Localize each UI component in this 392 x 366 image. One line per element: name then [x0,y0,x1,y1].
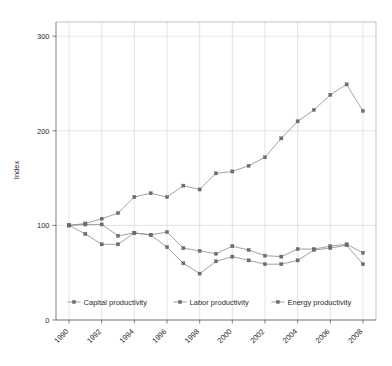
data-point-1998 [198,249,201,252]
data-point-1997 [182,247,185,250]
data-point-2008 [361,251,364,254]
y-tick-label-100: 100 [37,221,50,230]
y-tick-label-0: 0 [45,316,49,325]
data-point-2001 [247,259,250,262]
data-point-2007 [345,244,348,247]
data-point-1999 [214,252,217,255]
data-point-2004 [296,120,299,123]
data-point-1998 [198,272,201,275]
data-point-2003 [280,137,283,140]
data-point-2007 [345,83,348,86]
data-point-1996 [165,246,168,249]
data-point-2006 [329,247,332,250]
data-point-1991 [84,222,87,225]
data-point-2008 [361,263,364,266]
data-point-1994 [133,231,136,234]
data-point-1993 [116,212,119,215]
data-point-1992 [100,243,103,246]
legend-label: Capital productivity [84,298,148,307]
data-point-2001 [247,248,250,251]
data-point-2004 [296,247,299,250]
data-point-2008 [361,109,364,112]
data-point-1996 [165,195,168,198]
data-point-2000 [231,170,234,173]
data-point-1996 [165,230,168,233]
data-point-2000 [231,245,234,248]
y-axis-title: Index [12,161,21,180]
legend-marker-swatch [178,300,181,303]
data-point-1997 [182,184,185,187]
data-point-1990 [67,224,70,227]
chart-background [0,0,392,366]
data-point-2006 [329,93,332,96]
data-point-1994 [133,195,136,198]
y-tick-label-200: 200 [37,127,50,136]
data-point-1999 [214,260,217,263]
productivity-index-line-chart: 0100200300 19901992199419961998200020022… [0,0,392,366]
data-point-2000 [231,255,234,258]
chart-legend: Capital productivityLabor productivityEn… [68,298,352,307]
data-point-1995 [149,192,152,195]
data-point-2005 [312,248,315,251]
data-point-2003 [280,255,283,258]
data-point-1992 [100,217,103,220]
data-point-2004 [296,259,299,262]
chart-container: 0100200300 19901992199419961998200020022… [0,0,392,366]
data-point-2003 [280,263,283,266]
data-point-2002 [263,156,266,159]
data-point-1992 [100,223,103,226]
data-point-1999 [214,172,217,175]
legend-label: Energy productivity [287,298,351,307]
data-point-2001 [247,164,250,167]
data-point-1997 [182,262,185,265]
y-tick-label-300: 300 [37,32,50,41]
data-point-1995 [149,233,152,236]
data-point-1993 [116,234,119,237]
legend-marker-swatch [72,300,75,303]
data-point-1998 [198,188,201,191]
legend-marker-swatch [276,300,279,303]
data-point-2002 [263,263,266,266]
legend-label: Labor productivity [190,298,249,307]
data-point-1993 [116,243,119,246]
data-point-1991 [84,232,87,235]
data-point-2002 [263,254,266,257]
data-point-2005 [312,108,315,111]
